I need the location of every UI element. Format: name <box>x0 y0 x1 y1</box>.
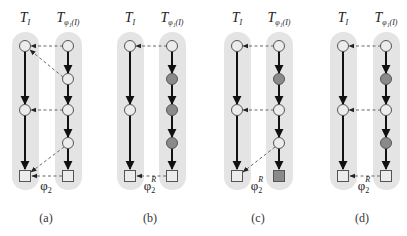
right-node-circle <box>274 105 285 116</box>
panel-a: TI Tφ₁(I) φ2 (a) <box>12 10 82 225</box>
right-node-circle <box>381 105 392 116</box>
panel-b: TI Tφ₁(I) φ2R (b) <box>117 10 186 225</box>
panel-caption: (d) <box>355 211 369 225</box>
left-tree-label: TI <box>125 10 136 27</box>
mapping-label: φ2R <box>144 175 157 195</box>
right-node-circle-highlighted <box>167 105 178 116</box>
mapping-label: φ2R <box>251 175 264 195</box>
right-node-leaf-square <box>63 171 74 182</box>
right-node-leaf-square <box>167 171 178 182</box>
left-node-circle <box>338 105 349 116</box>
right-node-circle-highlighted <box>274 74 285 85</box>
right-node-leaf-square <box>381 171 392 182</box>
panel-c: TI Tφ₁(I) φ2R (c) <box>224 10 293 225</box>
left-node-circle <box>125 41 136 52</box>
right-node-circle-highlighted <box>381 74 392 85</box>
left-node-circle <box>232 41 243 52</box>
right-node-circle-highlighted <box>167 74 178 85</box>
right-node-circle <box>63 41 74 52</box>
left-tree-label: TI <box>232 10 243 27</box>
right-node-circle-highlighted <box>381 138 392 149</box>
right-node-circle-highlighted <box>167 138 178 149</box>
left-tree-label: TI <box>338 10 349 27</box>
left-node-leaf-square <box>338 171 349 182</box>
right-tree-label: Tφ₁(I) <box>375 10 398 27</box>
right-tree-label: Tφ₁(I) <box>57 10 80 27</box>
right-node-leaf-square-highlighted <box>274 171 285 182</box>
mapping-label: φ2R <box>358 175 371 195</box>
left-node-leaf-square <box>125 171 136 182</box>
right-node-circle <box>274 41 285 52</box>
left-node-leaf-square <box>20 171 31 182</box>
left-node-circle <box>125 105 136 116</box>
left-node-leaf-square <box>232 171 243 182</box>
panel-caption: (b) <box>143 211 157 225</box>
left-tree-label: TI <box>20 10 31 27</box>
panel-d: TI Tφ₁(I) φ2R (d) <box>330 10 400 225</box>
right-node-circle <box>381 41 392 52</box>
right-node-circle <box>63 138 74 149</box>
left-node-circle <box>232 105 243 116</box>
right-node-circle <box>63 105 74 116</box>
panel-caption: (c) <box>251 211 264 225</box>
right-node-circle <box>167 41 178 52</box>
right-tree-label: Tφ₁(I) <box>268 10 291 27</box>
panel-caption: (a) <box>39 211 52 225</box>
left-node-circle <box>338 41 349 52</box>
right-node-circle <box>63 74 74 85</box>
right-tree-label: Tφ₁(I) <box>161 10 184 27</box>
figure-canvas: TI Tφ₁(I) φ2 (a) TI Tφ₁(I) <box>0 0 407 236</box>
right-node-circle <box>274 138 285 149</box>
left-node-circle <box>20 41 31 52</box>
mapping-label: φ2 <box>40 178 52 195</box>
left-node-circle <box>20 105 31 116</box>
